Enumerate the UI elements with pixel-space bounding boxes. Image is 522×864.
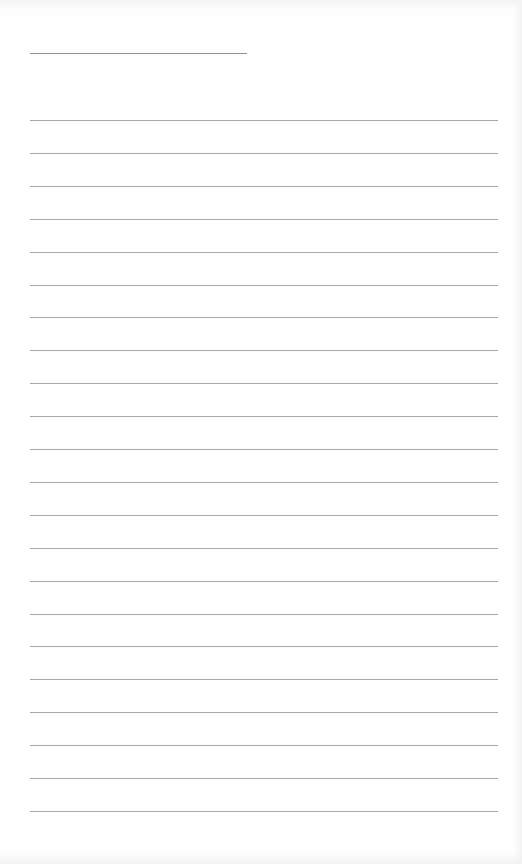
page-top-edge: [0, 0, 522, 10]
ruled-line: [30, 712, 498, 713]
ruled-line: [30, 252, 498, 253]
title-line: [30, 53, 247, 54]
ruled-line: [30, 317, 498, 318]
ruled-line: [30, 219, 498, 220]
ruled-line: [30, 679, 498, 680]
ruled-line: [30, 153, 498, 154]
ruled-line: [30, 449, 498, 450]
ruled-line: [30, 646, 498, 647]
ruled-line: [30, 285, 498, 286]
ruled-line: [30, 811, 498, 812]
ruled-line: [30, 778, 498, 779]
ruled-line: [30, 482, 498, 483]
ruled-line: [30, 745, 498, 746]
ruled-line: [30, 548, 498, 549]
ruled-line: [30, 120, 498, 121]
page-bottom-edge: [0, 852, 522, 864]
ruled-line: [30, 515, 498, 516]
ruled-line: [30, 416, 498, 417]
ruled-line: [30, 581, 498, 582]
ruled-line: [30, 350, 498, 351]
ruled-line: [30, 186, 498, 187]
ruled-line: [30, 383, 498, 384]
notebook-page: [0, 0, 522, 864]
ruled-line: [30, 614, 498, 615]
page-right-edge: [514, 0, 522, 864]
